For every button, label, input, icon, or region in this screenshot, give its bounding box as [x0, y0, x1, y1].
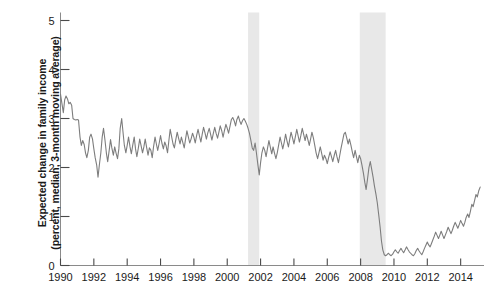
x-tick-label: 1992 — [82, 271, 106, 283]
x-tick-label: 2010 — [382, 271, 406, 283]
x-tick-label: 1996 — [148, 271, 172, 283]
x-tick-label: 2006 — [315, 271, 339, 283]
x-tick-label: 2012 — [415, 271, 439, 283]
data-line — [61, 94, 481, 256]
x-tick-label: 2008 — [348, 271, 372, 283]
x-tick-label: 1998 — [182, 271, 206, 283]
data-series-group — [61, 94, 481, 256]
x-tick-label: 2014 — [448, 271, 472, 283]
x-tick-label: 1994 — [115, 271, 139, 283]
x-tick-label: 2000 — [215, 271, 239, 283]
recession-2001 — [248, 13, 259, 266]
x-tick-label: 2002 — [248, 271, 272, 283]
y-axis-label: Expected change in family income (percen… — [36, 14, 62, 272]
chart-figure: Expected change in family income (percen… — [0, 0, 494, 297]
line-chart-plot: 0123451990199219941996199820002002200420… — [0, 0, 494, 297]
y-axis-label-line1: Expected change in family income — [36, 14, 49, 272]
recession-2008 — [360, 13, 386, 266]
x-tick-label: 1990 — [48, 271, 72, 283]
x-tick-label: 2004 — [282, 271, 306, 283]
y-axis-label-line2: (percent, median, 3-month moving average… — [49, 14, 62, 272]
recession-bands — [248, 13, 386, 266]
y-axis-label-container: Expected change in family income (percen… — [0, 0, 44, 280]
axis-ticks — [61, 21, 461, 266]
